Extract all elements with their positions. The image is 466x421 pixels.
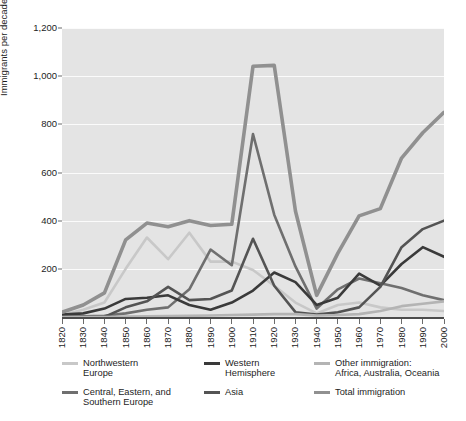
legend-item[interactable]: Other immigration: Africa, Australia, Oc… bbox=[314, 358, 439, 379]
x-axis-tick-label: 1930 bbox=[291, 327, 301, 348]
legend-item-label: Western Hemisphere bbox=[225, 358, 275, 379]
x-axis-tick-label: 1860 bbox=[142, 327, 152, 348]
x-axis-tick-label: 1910 bbox=[248, 327, 258, 348]
y-axis-tick-mark bbox=[58, 124, 62, 125]
legend-color-swatch bbox=[204, 391, 220, 394]
chart-legend: Northwestern EuropeCentral, Eastern, and… bbox=[62, 358, 466, 416]
x-axis-tick-label: 1830 bbox=[78, 327, 88, 348]
x-axis-tick-label: 1820 bbox=[57, 327, 67, 348]
y-axis-tick-mark bbox=[58, 220, 62, 221]
series-lines bbox=[62, 28, 444, 317]
x-axis-tick-mark bbox=[295, 319, 296, 324]
x-axis-tick-mark bbox=[253, 319, 254, 324]
legend-color-swatch bbox=[62, 391, 78, 394]
y-axis-tick-mark bbox=[58, 172, 62, 173]
x-axis-tick-mark bbox=[380, 319, 381, 324]
x-axis-tick-label: 1990 bbox=[418, 327, 428, 348]
legend-item-label: Total immigration bbox=[335, 387, 405, 397]
x-axis-tick-label: 1890 bbox=[206, 327, 216, 348]
x-axis-tick-label: 1970 bbox=[376, 327, 386, 348]
x-axis-tick-mark bbox=[316, 319, 317, 324]
y-axis-tick-mark bbox=[58, 28, 62, 29]
x-axis-tick-mark bbox=[274, 319, 275, 324]
immigration-line-chart: 1,2001,000800600400200 Immigrants per de… bbox=[0, 0, 466, 421]
y-axis-tick-mark bbox=[58, 76, 62, 77]
x-axis-tick-label: 1950 bbox=[333, 327, 343, 348]
legend-item[interactable]: Asia bbox=[204, 387, 243, 397]
legend-item[interactable]: Central, Eastern, and Southern Europe bbox=[62, 387, 171, 408]
x-axis-tick-label: 1840 bbox=[100, 327, 110, 348]
x-axis-tick-mark bbox=[422, 319, 423, 324]
x-axis-tick-mark bbox=[189, 319, 190, 324]
legend-item[interactable]: Northwestern Europe bbox=[62, 358, 138, 379]
legend-item-label: Central, Eastern, and Southern Europe bbox=[83, 387, 171, 408]
x-axis-tick-mark bbox=[168, 319, 169, 324]
legend-color-swatch bbox=[204, 362, 220, 365]
x-axis-tick-label: 1960 bbox=[354, 327, 364, 348]
legend-item[interactable]: Total immigration bbox=[314, 387, 405, 397]
x-axis-tick-label: 1850 bbox=[121, 327, 131, 348]
x-axis-tick-label: 1900 bbox=[227, 327, 237, 348]
x-axis-tick-mark bbox=[231, 319, 232, 324]
legend-color-swatch bbox=[314, 391, 330, 394]
x-axis-tick-mark bbox=[337, 319, 338, 324]
legend-color-swatch bbox=[314, 362, 330, 365]
x-axis-tick-label: 2000 bbox=[439, 327, 449, 348]
y-axis-title: Immigrants per decade (thousands) bbox=[0, 0, 9, 96]
x-axis-tick-label: 1920 bbox=[269, 327, 279, 348]
x-axis-tick-mark bbox=[125, 319, 126, 324]
x-axis-tick-mark bbox=[359, 319, 360, 324]
plot-area bbox=[62, 28, 444, 317]
x-axis-tick-label: 1870 bbox=[163, 327, 173, 348]
legend-color-swatch bbox=[62, 362, 78, 365]
legend-item-label: Northwestern Europe bbox=[83, 358, 138, 379]
x-axis-tick-mark bbox=[444, 319, 445, 324]
x-axis-tick-mark bbox=[146, 319, 147, 324]
x-axis-tick-label: 1980 bbox=[397, 327, 407, 348]
y-axis-tick-mark bbox=[58, 268, 62, 269]
x-axis-tick-mark bbox=[401, 319, 402, 324]
legend-item[interactable]: Western Hemisphere bbox=[204, 358, 275, 379]
x-axis-tick-mark bbox=[62, 319, 63, 324]
x-axis-tick-mark bbox=[83, 319, 84, 324]
x-axis-tick-mark bbox=[104, 319, 105, 324]
x-axis-tick-label: 1940 bbox=[312, 327, 322, 348]
legend-item-label: Other immigration: Africa, Australia, Oc… bbox=[335, 358, 439, 379]
x-axis-tick-mark bbox=[210, 319, 211, 324]
legend-item-label: Asia bbox=[225, 387, 243, 397]
x-axis-tick-label: 1880 bbox=[185, 327, 195, 348]
